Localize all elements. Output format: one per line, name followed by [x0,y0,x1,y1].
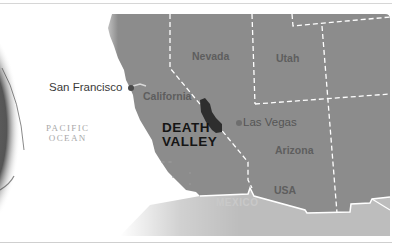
country-label-usa: USA [274,185,296,196]
city-label-san-francisco: San Francisco [49,82,123,94]
ocean-label: PACIFIC OCEAN [46,123,89,143]
globe-icon [0,40,28,216]
state-label-arizona: Arizona [275,145,314,156]
city-label-las-vegas: Las Vegas [243,117,297,129]
state-label-utah: Utah [276,53,299,64]
san-francisco-dot [128,85,134,91]
ocean-label-line2: OCEAN [46,133,89,143]
death-valley-label: DEATH VALLEY [162,121,217,149]
state-label-california: California [143,91,191,102]
usa-land [108,14,390,213]
country-label-mexico: MEXICO [216,198,258,208]
state-label-nevada: Nevada [192,51,229,62]
las-vegas-dot [236,120,242,126]
death-valley-label-line1: DEATH [162,121,217,135]
death-valley-label-line2: VALLEY [162,135,217,149]
ocean-label-line1: PACIFIC [46,123,89,133]
